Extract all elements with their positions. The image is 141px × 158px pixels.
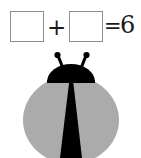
equals-symbol: = <box>104 16 122 37</box>
answer-box-first-addend[interactable] <box>10 11 44 42</box>
answer-box-second-addend[interactable] <box>69 11 103 42</box>
equation-result: 6 <box>120 13 135 37</box>
plus-symbol: + <box>47 16 66 39</box>
worksheet-page: + = 6 <box>0 0 141 158</box>
equation-row: + = 6 <box>0 0 141 50</box>
ladybug-svg <box>0 48 141 158</box>
ladybug-illustration <box>0 48 141 158</box>
